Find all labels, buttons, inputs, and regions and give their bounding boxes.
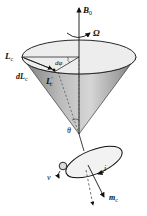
label-b0: B0 (82, 5, 92, 16)
velocity-arrow (58, 171, 60, 178)
electron (59, 162, 67, 170)
label-dlc: dLc (16, 72, 28, 82)
label-v: v (47, 173, 51, 182)
label-mc: mc (109, 193, 118, 203)
lc-prime-point (53, 69, 56, 72)
precession-diagram: B0 Ω Lc dφ dLc L′c θ v i mc (0, 0, 147, 216)
axis-below (79, 134, 84, 151)
label-dphi: dφ (55, 59, 63, 67)
label-omega: Ω (93, 28, 100, 38)
label-theta: θ (67, 126, 71, 135)
label-lc-prime: L′c (45, 76, 54, 87)
label-i: i (104, 164, 106, 173)
precession-arrow (67, 33, 90, 38)
label-lc: Lc (4, 51, 14, 62)
